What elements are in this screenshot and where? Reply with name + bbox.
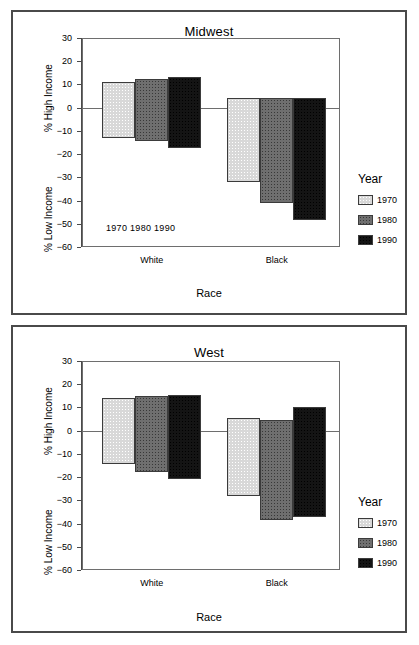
legend-item-1970-midwest[interactable]: 1970: [358, 195, 397, 205]
y-tick-west: [77, 524, 81, 525]
y-axis-title-high-income-west: % High Income: [43, 387, 54, 455]
y-tick-west: [77, 431, 81, 432]
legend-item-1980-midwest[interactable]: 1980: [358, 215, 397, 225]
y-tick-west: [77, 500, 81, 501]
y-tick-label-west: 0: [40, 426, 72, 436]
bar-black-1980-west[interactable]: [260, 420, 293, 520]
bar-white-1970-west[interactable]: [102, 398, 135, 464]
legend-item-1990-midwest[interactable]: 1990: [358, 235, 397, 245]
y-tick-label-midwest: −30: [40, 172, 72, 182]
y-tick-label-midwest: 30: [40, 33, 72, 43]
y-tick-label-west: −30: [40, 495, 72, 505]
legend-item-1980-west[interactable]: 1980: [358, 538, 397, 548]
y-tick-label-west: 30: [40, 356, 72, 366]
y-tick-west: [77, 570, 81, 571]
x-category-label-black-midwest: Black: [266, 255, 288, 265]
y-tick-midwest: [77, 154, 81, 155]
y-tick-midwest: [77, 108, 81, 109]
legend-item-1970-west[interactable]: 1970: [358, 518, 397, 528]
legend-west: Year 1970 1980 1990: [358, 495, 397, 578]
chart-panel-west: West % High Income % Low Income Race 302…: [11, 325, 407, 633]
y-tick-label-midwest: −10: [40, 126, 72, 136]
y-tick-label-midwest: −50: [40, 219, 72, 229]
legend-item-1990-west[interactable]: 1990: [358, 558, 397, 568]
y-tick-midwest: [77, 84, 81, 85]
bar-black-1990-west[interactable]: [293, 407, 326, 516]
chart-panel-midwest: Midwest % High Income % Low Income Race …: [11, 10, 407, 315]
y-tick-label-midwest: −20: [40, 149, 72, 159]
y-tick-west: [77, 547, 81, 548]
y-tick-midwest: [77, 224, 81, 225]
y-axis-line-midwest: [81, 38, 82, 247]
legend-title-west: Year: [358, 495, 397, 509]
plot-area-midwest: 1970 1980 1990 3020100−10−20−30−40−50−60…: [82, 38, 340, 247]
y-tick-label-west: −60: [40, 565, 72, 575]
y-tick-midwest: [77, 247, 81, 248]
bar-white-1990-west[interactable]: [168, 395, 201, 480]
y-tick-label-west: −10: [40, 449, 72, 459]
y-tick-label-midwest: −40: [40, 196, 72, 206]
y-tick-midwest: [77, 131, 81, 132]
legend-swatch-1980-icon: [358, 538, 373, 548]
y-tick-label-midwest: 10: [40, 79, 72, 89]
y-tick-midwest: [77, 38, 81, 39]
y-tick-label-west: 20: [40, 379, 72, 389]
x-category-label-black-west: Black: [266, 578, 288, 588]
y-tick-west: [77, 477, 81, 478]
y-tick-label-west: −20: [40, 472, 72, 482]
legend-swatch-1990-icon: [358, 235, 373, 245]
y-tick-label-midwest: −60: [40, 242, 72, 252]
y-tick-midwest: [77, 61, 81, 62]
x-category-label-white-west: White: [140, 578, 163, 588]
bar-black-1980-midwest[interactable]: [260, 98, 293, 203]
bar-white-1970-midwest[interactable]: [102, 82, 135, 138]
plot-area-west: 3020100−10−20−30−40−50−60WhiteBlack: [82, 361, 340, 570]
y-tick-label-west: −40: [40, 519, 72, 529]
legend-label-1970: 1970: [377, 195, 397, 205]
y-tick-west: [77, 454, 81, 455]
y-axis-line-west: [81, 361, 82, 570]
legend-label-1980: 1980: [377, 538, 397, 548]
y-tick-west: [77, 384, 81, 385]
legend-swatch-1970-icon: [358, 195, 373, 205]
bar-black-1990-midwest[interactable]: [293, 98, 326, 220]
legend-title-midwest: Year: [358, 172, 397, 186]
bar-white-1990-midwest[interactable]: [168, 77, 201, 148]
x-axis-title-west: Race: [13, 611, 405, 623]
y-tick-west: [77, 361, 81, 362]
legend-swatch-1970-icon: [358, 518, 373, 528]
y-tick-midwest: [77, 201, 81, 202]
x-axis-title-midwest: Race: [13, 287, 405, 299]
x-category-label-white-midwest: White: [140, 255, 163, 265]
legend-label-1990: 1990: [377, 235, 397, 245]
inline-year-labels-midwest: 1970 1980 1990: [106, 223, 175, 233]
legend-swatch-1990-icon: [358, 558, 373, 568]
bar-black-1970-midwest[interactable]: [227, 98, 260, 182]
y-tick-label-west: 10: [40, 402, 72, 412]
y-tick-west: [77, 407, 81, 408]
y-tick-label-midwest: 20: [40, 56, 72, 66]
bar-white-1980-west[interactable]: [135, 396, 168, 473]
legend-label-1970: 1970: [377, 518, 397, 528]
y-tick-label-west: −50: [40, 542, 72, 552]
y-tick-label-midwest: 0: [40, 103, 72, 113]
y-axis-title-high-income-midwest: % High Income: [43, 64, 54, 132]
bar-white-1980-midwest[interactable]: [135, 79, 168, 142]
legend-swatch-1980-icon: [358, 215, 373, 225]
legend-label-1980: 1980: [377, 215, 397, 225]
legend-midwest: Year 1970 1980 1990: [358, 172, 397, 255]
legend-label-1990: 1990: [377, 558, 397, 568]
y-tick-midwest: [77, 177, 81, 178]
bar-black-1970-west[interactable]: [227, 418, 260, 496]
